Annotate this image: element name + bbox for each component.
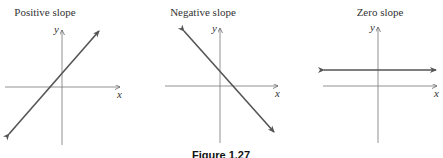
panel-negative-slope [165, 28, 278, 143]
panel-zero-slope [323, 27, 437, 143]
y-axis-label: y [370, 21, 375, 33]
figure-caption: Figure 1.27 [192, 149, 250, 158]
x-axis-label: x [275, 87, 280, 99]
negative-slope-line [184, 31, 274, 132]
slope-figure: Positive slope Negative slope Zero slope… [0, 0, 443, 158]
panel-title-positive: Positive slope [14, 6, 75, 18]
panel-title-zero: Zero slope [357, 6, 404, 18]
x-axis-label: x [117, 88, 122, 100]
y-axis-label: y [212, 22, 217, 34]
y-axis-label: y [54, 23, 59, 35]
x-axis-label: x [434, 87, 439, 99]
panel-positive-slope [5, 30, 120, 145]
positive-slope-line [9, 31, 99, 134]
slope-diagrams [0, 0, 443, 158]
panel-title-negative: Negative slope [170, 6, 236, 18]
